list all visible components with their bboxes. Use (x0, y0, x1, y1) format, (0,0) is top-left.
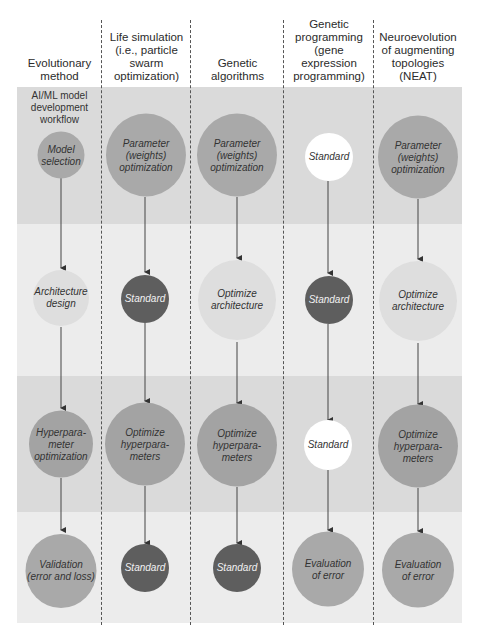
node-standard: Standard (305, 133, 353, 181)
node-model-selection: Model selection (38, 132, 85, 179)
node-standard: Standard (121, 544, 169, 592)
node-evaluation-of-error: Evaluation of error (292, 532, 364, 607)
node-optimize-hyperparameters: Optimize hyperpara- meters (105, 403, 185, 486)
node-optimize-architecture: Optimize architecture (198, 260, 276, 340)
node-optimize-architecture: Optimize architecture (379, 261, 457, 341)
node-standard: Standard (121, 275, 169, 323)
node-hyperparameter-optimization: Hyperpara- meter optimization (29, 411, 93, 478)
node-optimize-hyperparameters: Optimize hyperpara- meters (197, 404, 277, 487)
node-architecture-design: Architecture design (33, 270, 89, 326)
node-standard: Standard (305, 276, 353, 324)
node-parameter-optimization: Parameter (weights) optimization (106, 114, 186, 197)
node-parameter-optimization: Parameter (weights) optimization (197, 114, 277, 197)
node-parameter-optimization: Parameter (weights) optimization (378, 116, 458, 199)
node-validation: Validation (error and loss) (26, 534, 97, 608)
node-optimize-hyperparameters: Optimize hyperpara- meters (378, 405, 458, 488)
node-standard: Standard (304, 420, 352, 470)
node-standard: Standard (213, 544, 261, 592)
node-evaluation-of-error: Evaluation of error (382, 533, 454, 608)
